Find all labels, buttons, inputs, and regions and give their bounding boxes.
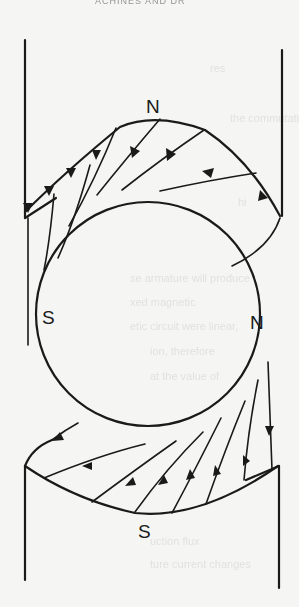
armature-rotor [36, 202, 260, 426]
arrow-icon [265, 426, 274, 436]
top-pole-piece [25, 40, 282, 218]
flux-lines-top [28, 119, 280, 345]
flux-arrows-bottom [52, 426, 274, 486]
diagram-page: ACHINES AND DR res the commutating hi se… [0, 0, 299, 607]
arrow-icon [125, 477, 136, 486]
arrow-icon [92, 150, 101, 160]
rotor-right-pole-label: N [250, 313, 264, 332]
rotor-left-pole-label: S [42, 308, 55, 327]
dc-machine-flux-diagram [0, 0, 299, 607]
arrow-icon [202, 168, 214, 178]
bottom-pole-label: S [138, 522, 151, 541]
top-pole-label: N [146, 97, 160, 116]
bottom-pole-piece [25, 440, 279, 588]
